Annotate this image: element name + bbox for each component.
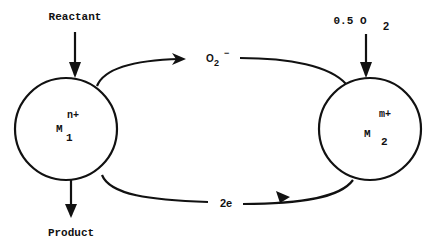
metal-2-subscript: 2 — [381, 136, 388, 148]
bottom-flow-arc-right — [243, 180, 353, 204]
top-flow-arc-left — [97, 59, 180, 86]
metal-1-subscript: 1 — [66, 132, 73, 144]
top-flow-charge: − — [224, 48, 229, 58]
metal-1-symbol: M — [56, 123, 63, 135]
redox-cycle-diagram: Reactant 0.5 O 2 Product M 1 n+ M 2 m+ O… — [0, 0, 440, 247]
top-flow-subscript: 2 — [214, 58, 219, 68]
oxygen-coef-label: 0.5 O — [333, 15, 366, 27]
product-arrowhead-icon — [65, 204, 77, 218]
product-label: Product — [48, 227, 94, 239]
bottom-flow-label: 2e — [220, 197, 232, 209]
reactant-arrowhead-icon — [69, 62, 81, 78]
oxygen-arrowhead-icon — [360, 62, 372, 78]
top-flow-arc-right — [240, 58, 346, 84]
bottom-flow-arc-left — [102, 175, 208, 202]
metal-1-charge: n+ — [67, 110, 79, 121]
oxygen-subscript: 2 — [383, 20, 389, 32]
metal-2-charge: m+ — [379, 109, 391, 120]
metal-1-circle — [15, 78, 117, 180]
metal-2-symbol: M — [364, 128, 371, 140]
top-flow-species: O — [206, 53, 214, 64]
reactant-label: Reactant — [49, 11, 102, 23]
